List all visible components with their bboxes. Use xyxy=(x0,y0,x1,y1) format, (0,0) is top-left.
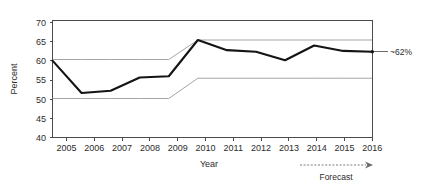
series-line-lower-band xyxy=(53,78,373,98)
y-tick-label-50: 50 xyxy=(36,95,46,105)
data-series-layer xyxy=(53,40,373,99)
forecast-indicator: Forecast xyxy=(300,161,373,182)
x-tick-label-2010: 2010 xyxy=(195,143,215,153)
x-tick-label-2008: 2008 xyxy=(140,143,160,153)
chart-figure: 70 65 60 55 50 45 40 Percent xyxy=(0,0,423,188)
y-tick-label-70: 70 xyxy=(36,18,46,28)
x-tick-label-2005: 2005 xyxy=(56,143,76,153)
x-tick-label-2009: 2009 xyxy=(168,143,188,153)
x-axis: 2005 2006 2007 2008 2009 2010 2011 2012 … xyxy=(56,138,382,170)
y-axis: 70 65 60 55 50 45 40 Percent xyxy=(9,18,53,143)
y-tick-label-65: 65 xyxy=(36,37,46,47)
x-tick-label-2013: 2013 xyxy=(279,143,299,153)
series-line-upper-band xyxy=(53,40,373,60)
y-tick-label-40: 40 xyxy=(36,133,46,143)
annotation-label-percent: ~62% xyxy=(390,47,412,57)
data-point-marker xyxy=(371,50,374,53)
x-tick-label-2016: 2016 xyxy=(362,143,382,153)
value-annotation: ~62% xyxy=(371,47,413,57)
percent-by-year-line-chart: 70 65 60 55 50 45 40 Percent xyxy=(0,0,423,188)
forecast-label: Forecast xyxy=(319,172,353,182)
x-tick-label-2011: 2011 xyxy=(224,143,243,153)
x-tick-label-2007: 2007 xyxy=(112,143,132,153)
arrow-head-icon xyxy=(365,161,373,168)
plot-frame xyxy=(53,21,373,138)
series-line-percent xyxy=(53,40,373,93)
y-tick-label-55: 55 xyxy=(36,75,46,85)
y-axis-title: Percent xyxy=(9,63,19,95)
y-tick-label-60: 60 xyxy=(36,56,46,66)
y-tick-label-45: 45 xyxy=(36,114,46,124)
x-tick-label-2012: 2012 xyxy=(251,143,271,153)
x-tick-label-2014: 2014 xyxy=(307,143,327,153)
x-tick-label-2015: 2015 xyxy=(334,143,354,153)
x-tick-label-2006: 2006 xyxy=(84,143,104,153)
x-axis-title: Year xyxy=(200,159,218,169)
